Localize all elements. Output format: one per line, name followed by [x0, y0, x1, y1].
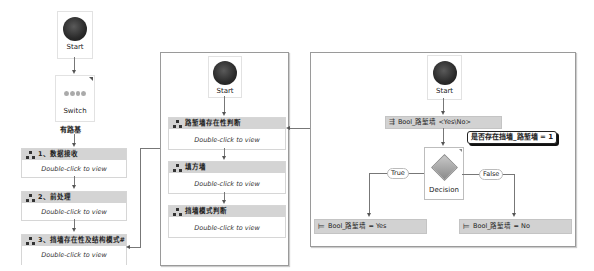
arrow-down-icon: [222, 200, 226, 204]
activity-title: 2、前处理: [38, 192, 71, 203]
arrow-left-icon: [126, 245, 130, 249]
decision-label: Decision: [425, 186, 463, 194]
assign-icon: ⊨: [318, 220, 325, 233]
arrow-down-icon: [72, 70, 76, 74]
expand-corner-icon: [89, 77, 93, 81]
start-label: Start: [428, 87, 461, 95]
connector: [443, 128, 444, 143]
activity-title: 3、挡墙存在性及结构模式#: [38, 235, 125, 246]
middle-start-node[interactable]: Start: [208, 56, 242, 98]
activity-hint: Double-click to view: [169, 173, 285, 188]
sequence-icon: [173, 164, 182, 172]
arrow-down-icon: [72, 228, 76, 232]
connector: [140, 148, 161, 149]
assign-text: Bool_路堑墙 = Yes: [328, 220, 387, 233]
activity-title: 1、数据接收: [38, 149, 78, 160]
assign-icon: ⇶: [389, 117, 395, 128]
decision-node[interactable]: Decision: [424, 147, 464, 200]
activity-preprocess[interactable]: 2、前处理 Double-click to view: [21, 191, 127, 221]
activity-cut-wall-existence[interactable]: 路堑墙存在性判断 Double-click to view: [168, 117, 286, 150]
connector: [130, 247, 140, 248]
activity-wall-existence[interactable]: 3、挡墙存在性及结构模式# Double-click to view: [21, 234, 127, 265]
start-icon: [213, 61, 237, 85]
start-label: Start: [58, 43, 92, 51]
arrow-down-icon: [441, 111, 445, 115]
connector: [74, 57, 75, 71]
decision-diamond-icon: [431, 154, 458, 181]
case-label: 有路基: [60, 124, 81, 134]
arrow-left-icon: [286, 126, 290, 130]
arrow-down-icon: [72, 185, 76, 189]
activity-fill-wall[interactable]: 填方墙 Double-click to view: [168, 161, 286, 194]
left-start-node[interactable]: Start: [57, 11, 93, 59]
activity-title: 挡墙模式判断: [185, 206, 227, 217]
assign-icon: ⊨: [463, 220, 470, 233]
arrow-down-icon: [222, 112, 226, 116]
activity-hint: Double-click to view: [22, 160, 126, 173]
assign-text: Bool_路堑墙 <Yes\No>: [398, 117, 471, 128]
activity-title: 路堑墙存在性判断: [185, 118, 241, 129]
switch-label: Switch: [56, 107, 94, 115]
switch-icon: [64, 91, 86, 96]
start-icon: [63, 17, 87, 41]
condition-annotation: 是否存在挡墙_路堑墙 = 1: [467, 131, 557, 144]
true-branch-label[interactable]: True: [387, 168, 409, 179]
activity-hint: Double-click to view: [22, 246, 126, 259]
connector: [289, 128, 310, 129]
activity-data-receive[interactable]: 1、数据接收 Double-click to view: [21, 148, 127, 178]
activity-wall-mode[interactable]: 挡墙模式判断 Double-click to view: [168, 205, 286, 238]
sequence-icon: [26, 237, 35, 245]
connector: [443, 98, 444, 112]
connector: [514, 174, 515, 214]
activity-title: 填方墙: [185, 162, 206, 173]
sequence-icon: [173, 208, 182, 216]
arrow-down-icon: [222, 156, 226, 160]
start-icon: [433, 61, 457, 85]
assign-text: Bool_路堑墙 = No: [473, 220, 530, 233]
assign-false[interactable]: ⊨ Bool_路堑墙 = No: [459, 219, 572, 234]
assign-true[interactable]: ⊨ Bool_路堑墙 = Yes: [314, 219, 427, 234]
arrow-down-icon: [441, 142, 445, 146]
expand-corner-icon: [459, 149, 462, 152]
sequence-icon: [173, 120, 182, 128]
start-label: Start: [209, 87, 241, 95]
switch-node[interactable]: Switch: [55, 75, 95, 122]
activity-hint: Double-click to view: [22, 203, 126, 216]
right-start-node[interactable]: Start: [427, 55, 462, 100]
sequence-icon: [26, 151, 35, 159]
activity-hint: Double-click to view: [169, 129, 285, 144]
sequence-icon: [26, 194, 35, 202]
false-branch-label[interactable]: False: [479, 169, 503, 180]
activity-hint: Double-click to view: [169, 217, 285, 232]
arrow-down-icon: [367, 213, 371, 217]
connector: [224, 96, 225, 113]
connector: [140, 148, 141, 248]
connector: [369, 173, 370, 214]
arrow-down-icon: [512, 213, 516, 217]
arrow-down-icon: [72, 143, 76, 147]
